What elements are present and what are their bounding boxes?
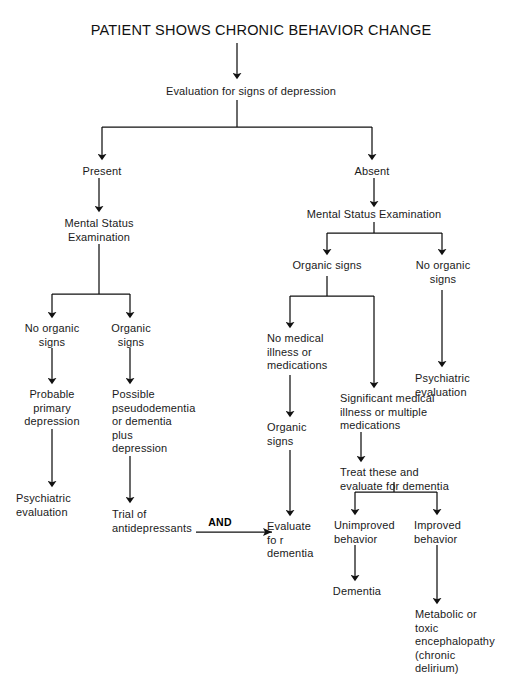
node-psychiatric-evaluation-left: Psychiatric evaluation — [16, 492, 71, 519]
flowchart-canvas: PATIENT SHOWS CHRONIC BEHAVIOR CHANGE Ev… — [0, 0, 522, 691]
connector-label-and: AND — [208, 516, 232, 528]
node-present: Present — [83, 165, 122, 179]
node-improved-behavior: Improved behavior — [414, 519, 461, 546]
node-metabolic-toxic-encephalopathy: Metabolic or toxic encephalopathy (chron… — [415, 608, 495, 676]
node-trial-antidepressants: Trial of antidepressants — [112, 508, 192, 535]
node-mental-status-examination-left: Mental Status Examination — [64, 217, 133, 244]
node-absent: Absent — [354, 165, 389, 179]
node-evaluate-for-dementia: Evaluate fo r dementia — [267, 520, 313, 561]
node-left-organic-signs: Organic signs — [111, 322, 151, 349]
node-left-no-organic-signs: No organic signs — [25, 322, 80, 349]
node-significant-medical-illness: Significant medical illness or multiple … — [340, 392, 435, 433]
node-no-medical-illness: No medical illness or medications — [267, 332, 327, 373]
node-treat-and-evaluate: Treat these and evaluate for dementia — [340, 466, 449, 493]
page-title: PATIENT SHOWS CHRONIC BEHAVIOR CHANGE — [91, 22, 432, 38]
node-unimproved-behavior: Unimproved behavior — [334, 519, 395, 546]
node-dementia: Dementia — [333, 585, 381, 599]
node-mental-status-examination-right: Mental Status Examination — [307, 208, 442, 222]
node-right-no-organic-signs: No organic signs — [416, 259, 471, 286]
node-possible-pseudodementia: Possible pseudodementia or dementia plus… — [112, 388, 195, 456]
node-probable-primary-depression: Probable primary depression — [24, 388, 79, 429]
node-evaluation-depression: Evaluation for signs of depression — [166, 85, 336, 99]
node-right-organic-signs: Organic signs — [292, 259, 361, 273]
node-organic-signs-mid: Organic signs — [267, 421, 307, 448]
